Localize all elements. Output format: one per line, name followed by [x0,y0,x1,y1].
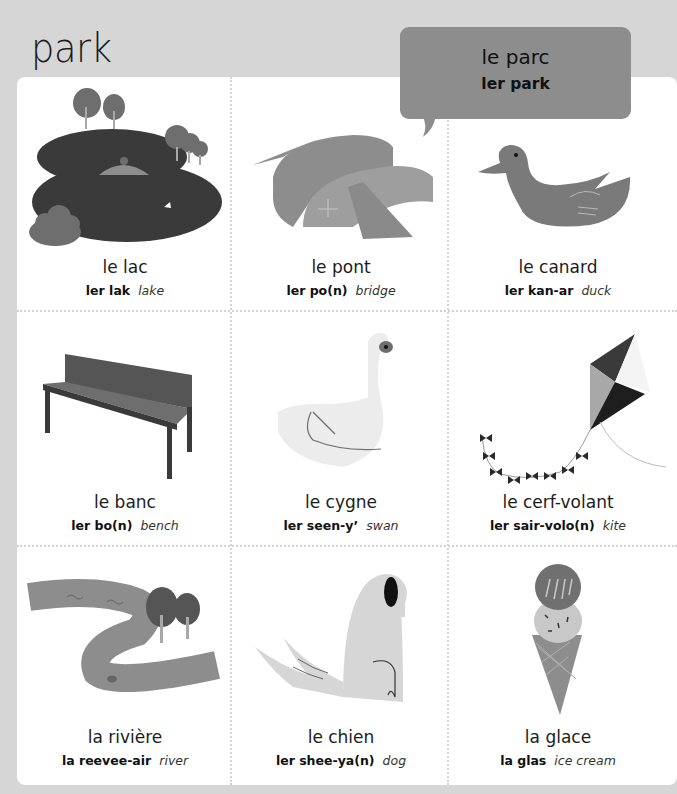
vocabulary-card: le lac ler laklake le pont ler po(n)brid… [17,77,677,785]
word-french: la glace [450,727,666,747]
swan-icon [233,312,449,487]
kite-icon [450,312,666,487]
word-english: duck [581,283,611,298]
word-french: le chien [233,727,449,747]
pronunciation: ler bo(n) [71,518,132,533]
word-pronunciation: la glasice cream [450,753,666,768]
bubble-pronunciation: ler park [400,75,631,93]
pronunciation: la reevee-air [62,753,151,768]
word-english: bench [140,518,178,533]
word-english: kite [603,518,626,533]
speech-bubble-tail-icon [420,115,442,139]
word-english: dog [383,753,407,768]
word-pronunciation: ler seen-y’swan [233,518,449,533]
word-french: le banc [17,492,233,512]
vocab-item-ice-cream: la glace la glasice cream [450,547,666,781]
vocab-item-lake: le lac ler laklake [17,77,233,311]
word-pronunciation: ler laklake [17,283,233,298]
pronunciation: ler shee-ya(n) [276,753,375,768]
pronunciation: la glas [500,753,546,768]
word-pronunciation: ler sair-volo(n)kite [450,518,666,533]
pronunciation: ler po(n) [286,283,347,298]
pronunciation: ler sair-volo(n) [490,518,595,533]
lake-icon [17,77,233,252]
word-pronunciation: ler bo(n)bench [17,518,233,533]
word-french: la rivière [17,727,233,747]
word-english: swan [366,518,398,533]
word-english: river [159,753,188,768]
word-english: bridge [356,283,396,298]
page-title: park [31,28,112,68]
word-french: le pont [233,257,449,277]
pronunciation: ler kan-ar [505,283,574,298]
vocab-item-bench: le banc ler bo(n)bench [17,312,233,546]
bubble-french: le parc [400,45,631,69]
word-french: le cerf-volant [450,492,666,512]
word-french: le canard [450,257,666,277]
pronunciation: ler lak [86,283,130,298]
vocab-item-dog: le chien ler shee-ya(n)dog [233,547,449,781]
word-english: lake [138,283,164,298]
vocab-item-swan: le cygne ler seen-y’swan [233,312,449,546]
word-pronunciation: ler kan-arduck [450,283,666,298]
word-french: le lac [17,257,233,277]
bench-icon [17,312,233,487]
pronunciation: ler seen-y’ [284,518,359,533]
word-english: ice cream [554,753,616,768]
river-icon [17,547,233,722]
translation-bubble: le parc ler park [400,27,631,119]
word-french: le cygne [233,492,449,512]
vocab-item-kite: le cerf-volant ler sair-volo(n)kite [450,312,666,546]
word-pronunciation: ler po(n)bridge [233,283,449,298]
word-pronunciation: ler shee-ya(n)dog [233,753,449,768]
ice-cream-icon [450,547,666,722]
dog-icon [233,547,449,722]
word-pronunciation: la reevee-airriver [17,753,233,768]
vocab-item-river: la rivière la reevee-airriver [17,547,233,781]
